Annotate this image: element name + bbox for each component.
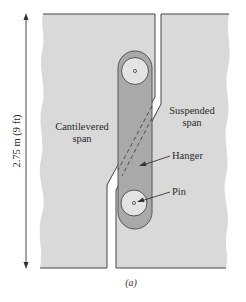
figure-caption: (a) xyxy=(125,277,137,289)
arrow-down-icon xyxy=(24,262,29,269)
arrow-up-icon xyxy=(24,13,29,20)
pin-label: Pin xyxy=(172,186,187,197)
cantilevered-label-line2: span xyxy=(72,133,92,144)
suspended-label-line1: Suspended xyxy=(169,105,215,116)
hanger-label: Hanger xyxy=(172,150,203,161)
top-pin xyxy=(122,58,149,85)
hinge-diagram: 2.75 m (9 ft) Cantilevered span Suspende… xyxy=(0,0,246,302)
suspended-label-line2: span xyxy=(182,117,202,128)
cantilevered-label-line1: Cantilevered xyxy=(55,121,109,132)
bottom-pin xyxy=(121,190,147,216)
dimension-label: 2.75 m (9 ft) xyxy=(11,114,23,168)
